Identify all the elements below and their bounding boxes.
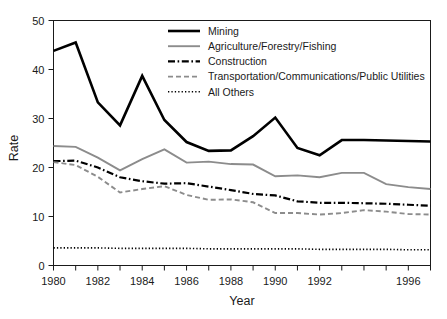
x-tick-label: 1980 xyxy=(41,275,65,287)
y-tick-label: 20 xyxy=(32,162,44,174)
x-tick-label: 1992 xyxy=(307,275,331,287)
legend-label: Mining xyxy=(208,25,239,37)
y-tick-label: 10 xyxy=(32,211,44,223)
legend-label: Transportation/Communications/Public Uti… xyxy=(208,70,425,82)
y-axis-tick-labels: 01020304050 xyxy=(32,15,44,272)
y-tick-label: 30 xyxy=(32,113,44,125)
legend-label: Construction xyxy=(208,55,267,67)
x-tick-label: 1990 xyxy=(263,275,287,287)
x-tick-label: 1988 xyxy=(219,275,243,287)
x-axis-ticks xyxy=(54,266,431,271)
y-axis-ticks xyxy=(49,21,54,266)
y-tick-label: 50 xyxy=(32,15,44,27)
y-tick-label: 40 xyxy=(32,64,44,76)
x-tick-label: 1986 xyxy=(174,275,198,287)
x-axis-title: Year xyxy=(229,294,254,308)
line-chart: 01020304050 1980198219841986198819901992… xyxy=(0,0,447,319)
legend-label: All Others xyxy=(208,86,254,98)
x-tick-label: 1984 xyxy=(130,275,154,287)
x-tick-label: 1996 xyxy=(396,275,420,287)
legend-label: Agriculture/Forestry/Fishing xyxy=(208,40,337,52)
chart-figure: 01020304050 1980198219841986198819901992… xyxy=(0,0,447,319)
y-axis-title: Rate xyxy=(7,135,21,161)
x-axis-tick-labels: 19801982198419861988199019921996 xyxy=(41,275,420,287)
y-tick-label: 0 xyxy=(38,260,44,272)
x-tick-label: 1982 xyxy=(86,275,110,287)
